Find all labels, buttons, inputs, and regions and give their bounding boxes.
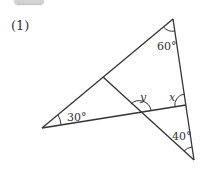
side-top-left xyxy=(42,19,173,128)
angle-arc-left xyxy=(58,115,61,125)
line-left-to-right-side xyxy=(42,105,186,128)
line-diagonal-to-bottom xyxy=(103,77,194,160)
angle-label-left: 30° xyxy=(67,111,87,124)
angle-label-x: x xyxy=(169,91,176,104)
triangle-figure: 60° 30° y x 40° xyxy=(0,0,208,169)
angle-arc-bottom xyxy=(184,147,192,151)
angle-label-bottom: 40° xyxy=(172,130,192,143)
angle-label-y: y xyxy=(139,91,147,104)
angle-label-top: 60° xyxy=(157,40,177,53)
angle-arc-top xyxy=(164,27,176,31)
